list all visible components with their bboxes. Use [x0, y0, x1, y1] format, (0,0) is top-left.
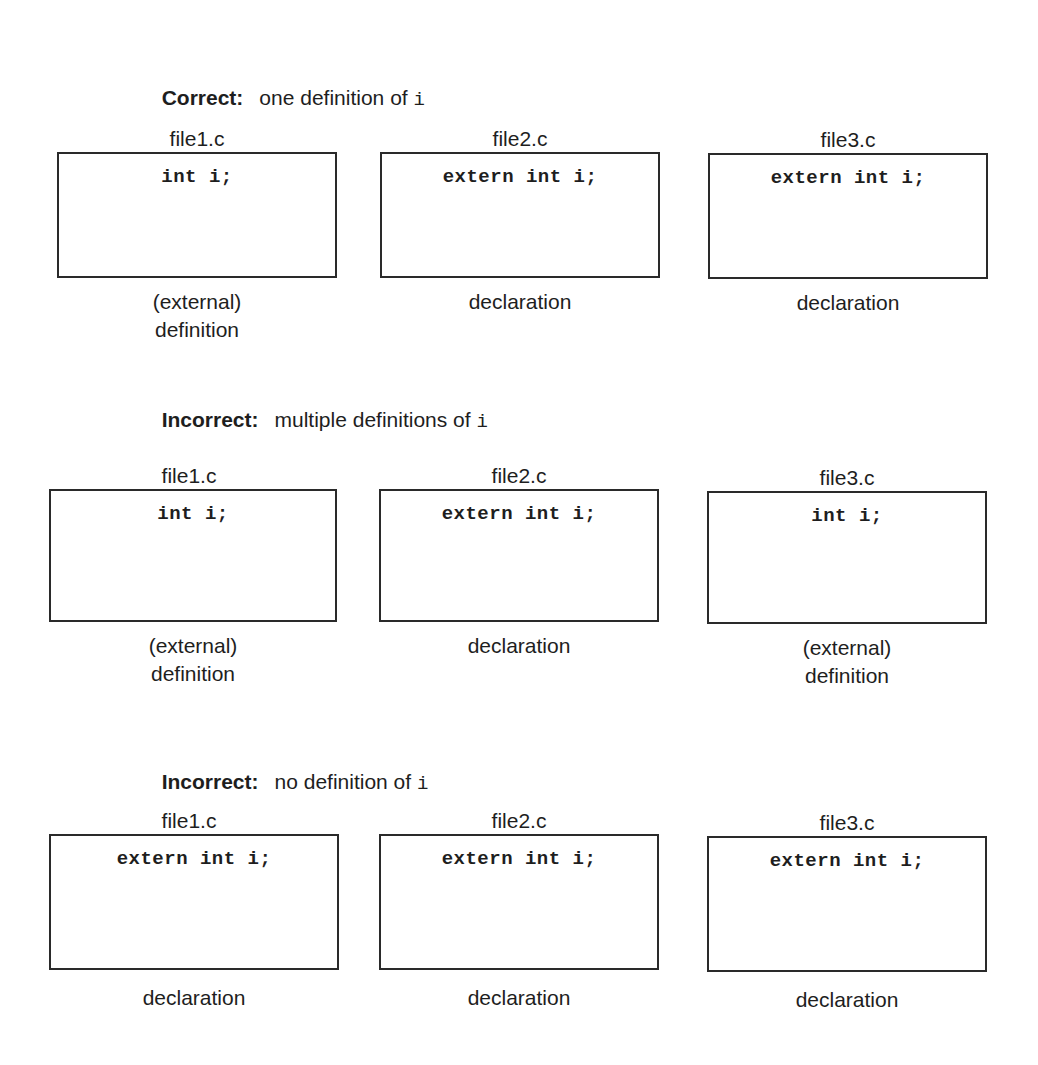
caption-line: declaration	[708, 289, 988, 317]
file-box: extern int i;	[379, 489, 659, 622]
file-name: file1.c	[57, 126, 337, 152]
file-panel-file2: file2.c extern int i; declaration	[380, 126, 660, 316]
symbol-name: i	[476, 411, 487, 433]
file-caption: declaration	[708, 289, 988, 317]
status-label: Incorrect:	[162, 408, 259, 431]
code-line: extern int i;	[381, 848, 657, 870]
section-title-correct: Correct:one definition of i	[150, 62, 425, 111]
code-line: int i;	[59, 166, 335, 188]
file-caption: declaration	[379, 632, 659, 660]
code-line: int i;	[709, 505, 985, 527]
section-description: no definition of	[275, 770, 417, 793]
caption-line: (external)	[49, 632, 337, 660]
caption-line: declaration	[379, 632, 659, 660]
file-panel-file2: file2.c extern int i; declaration	[379, 808, 659, 1012]
file-name: file1.c	[49, 463, 329, 489]
file-name: file1.c	[49, 808, 329, 834]
caption-line: declaration	[49, 984, 339, 1012]
file-panel-file1: file1.c int i; (external) definition	[49, 463, 329, 688]
code-line: extern int i;	[709, 850, 985, 872]
file-panel-file3: file3.c int i; (external) definition	[707, 465, 987, 690]
file-caption: (external) definition	[57, 288, 337, 344]
caption-line: (external)	[707, 634, 987, 662]
code-line: extern int i;	[382, 166, 658, 188]
file-box: extern int i;	[708, 153, 988, 279]
status-label: Incorrect:	[162, 770, 259, 793]
file-panel-file2: file2.c extern int i; declaration	[379, 463, 659, 660]
file-panel-file3: file3.c extern int i; declaration	[707, 810, 987, 1014]
file-caption: declaration	[379, 984, 659, 1012]
caption-line: declaration	[380, 288, 660, 316]
file-caption: declaration	[49, 984, 339, 1012]
file-panel-file1: file1.c extern int i; declaration	[49, 808, 329, 1012]
file-box: extern int i;	[707, 836, 987, 972]
status-label: Correct:	[162, 86, 244, 109]
caption-line: definition	[57, 316, 337, 344]
file-panel-file1: file1.c int i; (external) definition	[57, 126, 337, 344]
section-description: multiple definitions of	[275, 408, 477, 431]
caption-line: definition	[49, 660, 337, 688]
caption-line: definition	[707, 662, 987, 690]
symbol-name: i	[413, 89, 424, 111]
file-name: file2.c	[380, 126, 660, 152]
file-box: int i;	[49, 489, 337, 622]
caption-line: (external)	[57, 288, 337, 316]
section-title-incorrect-none: Incorrect:no definition of i	[150, 746, 428, 795]
symbol-name: i	[417, 773, 428, 795]
code-line: extern int i;	[51, 848, 337, 870]
caption-line: declaration	[707, 986, 987, 1014]
file-name: file2.c	[379, 463, 659, 489]
file-name: file3.c	[707, 465, 987, 491]
section-description: one definition of	[259, 86, 413, 109]
file-panel-file3: file3.c extern int i; declaration	[708, 127, 988, 317]
file-caption: declaration	[380, 288, 660, 316]
code-line: extern int i;	[710, 167, 986, 189]
file-caption: (external) definition	[49, 632, 337, 688]
file-name: file3.c	[707, 810, 987, 836]
file-caption: declaration	[707, 986, 987, 1014]
file-box: int i;	[57, 152, 337, 278]
file-box: extern int i;	[380, 152, 660, 278]
code-line: int i;	[51, 503, 335, 525]
file-caption: (external) definition	[707, 634, 987, 690]
file-box: extern int i;	[49, 834, 339, 970]
file-box: extern int i;	[379, 834, 659, 970]
caption-line: declaration	[379, 984, 659, 1012]
file-box: int i;	[707, 491, 987, 624]
file-name: file3.c	[708, 127, 988, 153]
code-line: extern int i;	[381, 503, 657, 525]
file-name: file2.c	[379, 808, 659, 834]
section-title-incorrect-multiple: Incorrect:multiple definitions of i	[150, 384, 488, 433]
